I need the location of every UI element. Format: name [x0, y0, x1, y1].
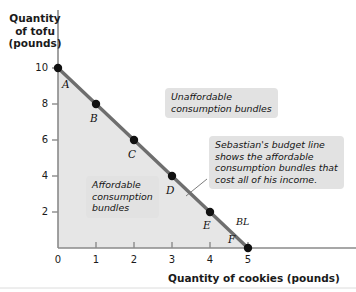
y-tick-label-10: 10 [28, 62, 48, 73]
x-tick-label-0: 0 [49, 254, 67, 265]
x-axis-title: Quantity of cookies (pounds) [168, 272, 354, 285]
point-label-f: F [228, 233, 235, 245]
x-tick-label-3: 3 [163, 254, 181, 265]
x-tick-label-4: 4 [201, 254, 219, 265]
annotation-unaffordable: Unaffordable consumption bundles [165, 88, 278, 118]
data-point-c [130, 136, 138, 144]
y-tick-label-4: 4 [28, 170, 48, 181]
y-axis-title-line1: Quantity [4, 12, 66, 25]
point-label-b: B [90, 112, 98, 124]
data-point-f [244, 244, 252, 252]
data-point-b [92, 100, 100, 108]
budget-line-chart: Quantity of tofu (pounds) Quantity of co… [0, 0, 356, 292]
y-tick-label-2: 2 [28, 206, 48, 217]
y-axis-title-line3: (pounds) [4, 37, 66, 50]
data-point-d [168, 172, 176, 180]
point-label-a: A [62, 78, 70, 90]
annotation-budget-line4: cost all of his income. [215, 174, 338, 186]
annotation-affordable-line3: bundles [92, 202, 153, 214]
point-label-e: E [203, 219, 211, 231]
x-tick-label-2: 2 [125, 254, 143, 265]
annotation-affordable-line2: consumption [92, 191, 153, 203]
data-point-e [206, 208, 214, 216]
annotation-budget-line3: consumption bundles that [215, 162, 338, 174]
point-label-c: C [128, 148, 136, 160]
x-tick-label-1: 1 [87, 254, 105, 265]
annotation-budget-line1: Sebastian's budget line [215, 139, 338, 151]
annotation-unaffordable-line2: consumption bundles [171, 103, 272, 115]
y-axis-title-line2: of tofu [4, 25, 66, 38]
series-label-bl: BL [236, 216, 249, 227]
data-point-a [54, 64, 62, 72]
annotation-budget-line: Sebastian's budget line shows the afford… [209, 136, 344, 189]
x-tick-label-5: 5 [239, 254, 257, 265]
annotation-affordable: Affordable consumption bundles [86, 176, 159, 218]
annotation-budget-line2: shows the affordable [215, 151, 338, 163]
annotation-affordable-line1: Affordable [92, 179, 153, 191]
annotation-unaffordable-line1: Unaffordable [171, 91, 272, 103]
y-axis-title: Quantity of tofu (pounds) [4, 12, 66, 50]
y-tick-label-6: 6 [28, 134, 48, 145]
y-tick-label-8: 8 [28, 98, 48, 109]
point-label-d: D [166, 184, 174, 196]
callout-leader-line [186, 179, 207, 196]
